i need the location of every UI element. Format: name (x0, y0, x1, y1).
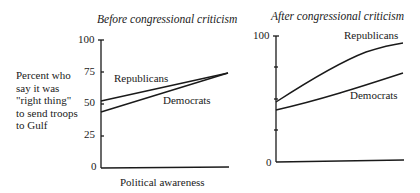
right-republicans-label: Republicans (344, 29, 398, 41)
left-republicans-label: Republicans (114, 72, 168, 84)
left-ytick-0: 0 (91, 160, 97, 172)
right-democrats-label: Democrats (350, 89, 398, 101)
left-ytick-100: 100 (78, 33, 95, 45)
right-ytick-100: 100 (253, 29, 270, 41)
y-axis-label-line: to send troops (16, 107, 96, 120)
y-axis-label-line: say it was (16, 82, 96, 95)
left-democrats-label: Democrats (163, 94, 211, 106)
left-ytick-25: 25 (84, 128, 95, 140)
right-ytick-0: 0 (266, 156, 272, 168)
left-panel-title: Before congressional criticism (97, 13, 237, 25)
right-panel-title: After congressional criticism (271, 10, 404, 22)
x-axis-label: Political awareness (120, 176, 205, 188)
left-ytick-75: 75 (84, 65, 95, 77)
left-ytick-50: 50 (84, 96, 95, 108)
